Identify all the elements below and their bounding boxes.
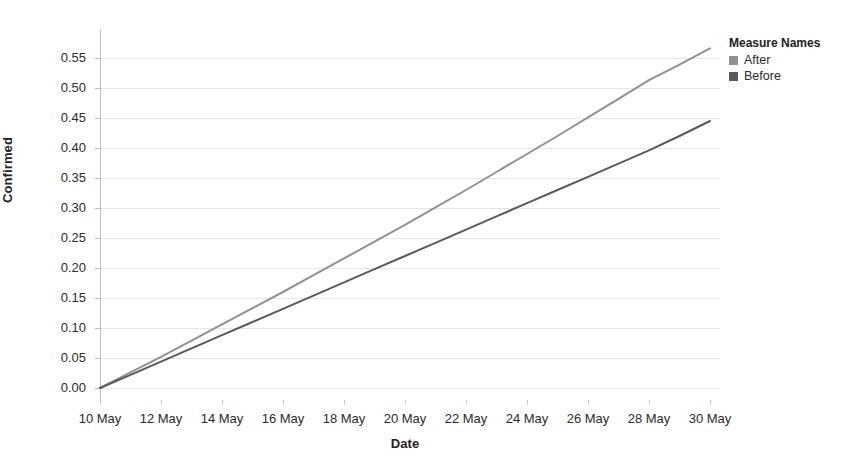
gridline bbox=[100, 88, 720, 89]
y-tick-label: 0.40 bbox=[32, 141, 86, 154]
x-tick-mark bbox=[283, 400, 284, 405]
x-tick-mark bbox=[710, 400, 711, 405]
gridline bbox=[100, 238, 720, 239]
legend-swatch-icon bbox=[729, 56, 738, 65]
legend-title: Measure Names bbox=[729, 36, 859, 50]
x-axis-title: Date bbox=[100, 436, 710, 451]
legend-swatch-icon bbox=[729, 72, 738, 81]
line-chart: Confirmed Date 0.000.050.100.150.200.250… bbox=[0, 0, 867, 467]
x-tick-label: 30 May bbox=[670, 412, 750, 425]
gridline bbox=[100, 208, 720, 209]
x-tick-mark bbox=[100, 400, 101, 405]
gridline bbox=[100, 178, 720, 179]
y-tick-label: 0.10 bbox=[32, 321, 86, 334]
x-tick-mark bbox=[344, 400, 345, 405]
y-tick-label: 0.20 bbox=[32, 261, 86, 274]
y-tick-label: 0.35 bbox=[32, 171, 86, 184]
legend-label: After bbox=[744, 53, 770, 67]
x-tick-mark bbox=[405, 400, 406, 405]
x-tick-mark bbox=[466, 400, 467, 405]
y-tick-label: 0.15 bbox=[32, 291, 86, 304]
x-tick-mark bbox=[649, 400, 650, 405]
legend: Measure Names AfterBefore bbox=[729, 36, 859, 85]
gridline bbox=[100, 148, 720, 149]
gridline bbox=[100, 358, 720, 359]
x-tick-mark bbox=[161, 400, 162, 405]
x-tick-mark bbox=[222, 400, 223, 405]
y-axis-line bbox=[100, 30, 101, 400]
x-tick-mark bbox=[588, 400, 589, 405]
series-line-before bbox=[100, 121, 710, 388]
x-tick-mark bbox=[527, 400, 528, 405]
legend-item-after[interactable]: After bbox=[729, 53, 859, 67]
y-tick-label: 0.45 bbox=[32, 111, 86, 124]
gridline bbox=[100, 298, 720, 299]
y-tick-label: 0.05 bbox=[32, 351, 86, 364]
gridline bbox=[100, 118, 720, 119]
y-tick-label: 0.30 bbox=[32, 201, 86, 214]
gridline bbox=[100, 268, 720, 269]
gridline bbox=[100, 58, 720, 59]
series-line-after bbox=[100, 48, 710, 388]
y-axis-title: Confirmed bbox=[0, 100, 15, 240]
gridline bbox=[100, 388, 720, 389]
y-tick-label: 0.50 bbox=[32, 81, 86, 94]
legend-item-before[interactable]: Before bbox=[729, 69, 859, 83]
legend-label: Before bbox=[744, 69, 781, 83]
y-tick-label: 0.55 bbox=[32, 51, 86, 64]
y-tick-label: 0.25 bbox=[32, 231, 86, 244]
gridline bbox=[100, 328, 720, 329]
y-tick-label: 0.00 bbox=[32, 381, 86, 394]
